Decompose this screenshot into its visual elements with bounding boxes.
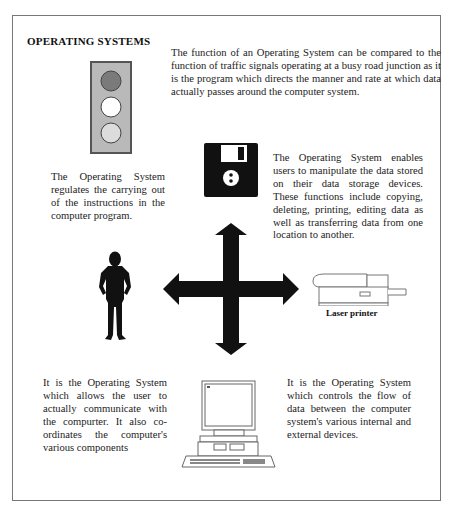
traffic-light-icon xyxy=(90,61,132,154)
desktop-computer-icon xyxy=(180,380,277,468)
four-way-arrow-icon xyxy=(162,223,300,355)
floppy-disk-icon xyxy=(204,143,258,197)
person-silhouette-icon xyxy=(98,251,132,343)
printer-caption: Laser printer xyxy=(326,308,378,318)
user-communication-paragraph: It is the Operating System which allows … xyxy=(43,377,167,454)
traffic-signals-paragraph: The function of an Operating System can … xyxy=(171,47,441,99)
laser-printer-icon xyxy=(312,272,408,306)
page-title: OPERATING SYSTEMS xyxy=(27,35,150,47)
data-flow-paragraph: It is the Operating System which control… xyxy=(287,377,411,442)
instructions-paragraph: The Operating System regulates the carry… xyxy=(51,171,165,223)
